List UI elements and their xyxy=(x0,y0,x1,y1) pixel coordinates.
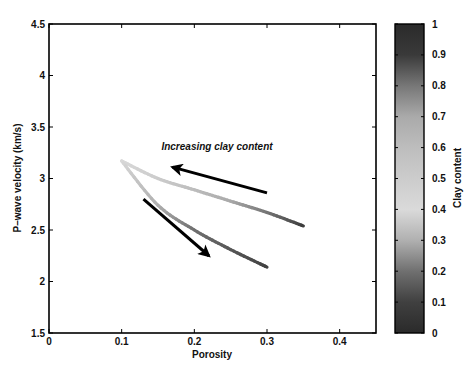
x-tick-label: 0.3 xyxy=(260,336,274,347)
colorbar-tick-label: 0.2 xyxy=(432,266,446,277)
colorbar-tick-label: 0.3 xyxy=(432,235,446,246)
colorbar-tick-label: 0.9 xyxy=(432,49,446,60)
y-axis-label: P–wave velocity (km/s) xyxy=(12,124,23,233)
y-tick-label: 3.5 xyxy=(31,122,45,133)
y-tick-label: 4 xyxy=(39,70,45,81)
y-tick-label: 1.5 xyxy=(31,328,45,339)
x-tick-label: 0.1 xyxy=(115,336,129,347)
x-tick-label: 0.2 xyxy=(187,336,201,347)
annotation-text: Increasing clay content xyxy=(161,141,273,152)
colorbar-tick-label: 0.1 xyxy=(432,297,446,308)
y-tick-label: 3 xyxy=(39,173,45,184)
colorbar-gradient xyxy=(395,24,424,333)
colorbar-tick-label: 0.8 xyxy=(432,80,446,91)
colorbar-tick-label: 0.5 xyxy=(432,173,446,184)
colorbar-tick-label: 0.7 xyxy=(432,111,446,122)
colorbar-tick-label: 1 xyxy=(432,19,438,30)
y-tick-label: 4.5 xyxy=(31,19,45,30)
colorbar-tick-label: 0 xyxy=(432,328,438,339)
x-tick-label: 0.4 xyxy=(333,336,347,347)
y-tick-label: 2 xyxy=(39,276,45,287)
colorbar-label: Clay content xyxy=(452,147,463,208)
colorbar-tick-label: 0.6 xyxy=(432,142,446,153)
colorbar-tick-label: 0.4 xyxy=(432,204,446,215)
x-tick-label: 0 xyxy=(46,336,52,347)
x-axis-label: Porosity xyxy=(192,349,232,360)
colorbar: 00.10.20.30.40.50.60.70.80.91 xyxy=(395,19,446,339)
y-tick-label: 2.5 xyxy=(31,225,45,236)
chart: 00.10.20.30.4 1.522.533.544.5 00.10.20.3… xyxy=(0,0,473,378)
